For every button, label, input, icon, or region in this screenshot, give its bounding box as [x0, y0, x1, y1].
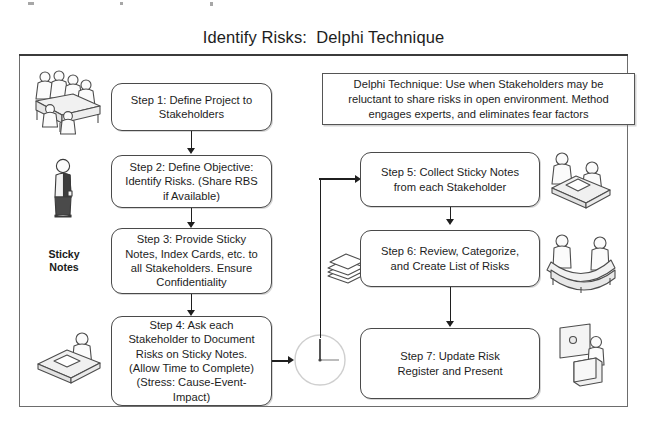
diagram-canvas: Identify Risks: Delphi Technique — [0, 0, 645, 437]
step-1-box[interactable]: Step 1: Define Project to Stakeholders — [111, 83, 272, 131]
delphi-technique-note-text: Delphi Technique: Use when Stakeholders … — [348, 77, 609, 122]
scan-artifact — [28, 2, 34, 5]
connector-to-step5 — [319, 178, 355, 180]
step-5-box[interactable]: Step 5: Collect Sticky Notes from each S… — [360, 152, 540, 207]
step-3-box[interactable]: Step 3: Provide Sticky Notes, Index Card… — [111, 228, 272, 294]
step-4-box[interactable]: Step 4: Ask each Stakeholder to Document… — [111, 316, 272, 406]
connector-step2-step3 — [191, 208, 193, 222]
step-5-label: Step 5: Collect Sticky Notes from each S… — [381, 165, 519, 194]
meeting-table-group-icon — [28, 68, 106, 140]
arrowhead-step3 — [187, 222, 195, 228]
sticky-notes-caption: Sticky Notes — [24, 248, 104, 274]
step-1-label: Step 1: Define Project to Stakeholders — [131, 93, 252, 122]
step-7-label: Step 7: Update Risk Register and Present — [397, 349, 502, 378]
page-title: Identify Risks: Delphi Technique — [203, 28, 444, 47]
step-7-box[interactable]: Step 7: Update Risk Register and Present — [360, 328, 540, 399]
step-2-label: Step 2: Define Objective: Identify Risks… — [125, 160, 257, 203]
two-people-curved-table-icon — [548, 232, 618, 294]
two-people-desk-icon — [548, 150, 618, 214]
presenter-board-icon — [556, 322, 614, 388]
standing-person-icon — [48, 158, 82, 218]
diagram-title-band: Identify Risks: Delphi Technique — [19, 21, 628, 56]
connector-step3-step4 — [191, 294, 193, 310]
arrowhead-step7 — [446, 321, 454, 327]
arrowhead-step2 — [187, 148, 195, 154]
connector-step6-step7 — [450, 287, 452, 321]
connector-step4-clock — [272, 360, 288, 362]
step-4-label: Step 4: Ask each Stakeholder to Document… — [128, 318, 254, 404]
arrowhead-step6 — [446, 219, 454, 225]
connector-clock-riser — [320, 178, 322, 338]
person-writing-desk-icon — [34, 330, 106, 386]
step-6-label: Step 6: Review, Categorize, and Create L… — [381, 244, 519, 273]
step-6-box[interactable]: Step 6: Review, Categorize, and Create L… — [360, 230, 540, 287]
connector-step5-step6 — [450, 207, 452, 219]
step-2-box[interactable]: Step 2: Define Objective: Identify Risks… — [111, 155, 272, 208]
arrowhead-step4 — [187, 310, 195, 316]
delphi-technique-note: Delphi Technique: Use when Stakeholders … — [322, 73, 635, 125]
connector-step1-step2 — [191, 131, 193, 148]
scan-artifact — [210, 2, 213, 6]
clock-icon — [292, 332, 348, 388]
scan-artifact — [120, 2, 123, 5]
step-3-label: Step 3: Provide Sticky Notes, Index Card… — [125, 232, 257, 290]
